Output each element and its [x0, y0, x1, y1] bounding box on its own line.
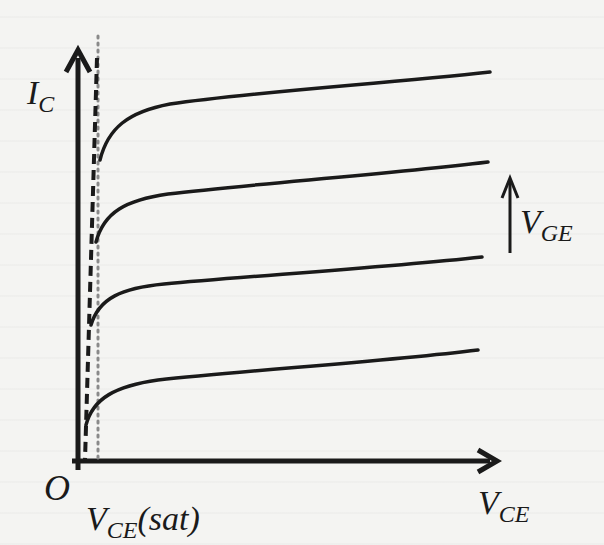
- curve-vge-2: [91, 257, 482, 325]
- vge-increase-arrow: [502, 178, 518, 253]
- curve-vge-3: [96, 162, 488, 242]
- x-axis: [72, 450, 497, 472]
- y-axis-label: IC: [26, 74, 55, 117]
- characteristic-curves: [86, 72, 490, 425]
- vge-label: VGE: [520, 203, 573, 246]
- curve-vge-1: [86, 350, 478, 425]
- figure-page: IC VGE O VCE(sat) VCE: [0, 0, 604, 545]
- saturation-boundary-dashed-line: [85, 58, 97, 460]
- vce-sat-label: VCE(sat): [86, 500, 200, 543]
- igbt-output-characteristics-diagram: IC VGE O VCE(sat) VCE: [0, 0, 604, 545]
- origin-label: O: [44, 468, 70, 508]
- y-axis: [66, 50, 90, 470]
- x-axis-label: VCE: [478, 484, 530, 527]
- curve-vge-4: [100, 72, 490, 160]
